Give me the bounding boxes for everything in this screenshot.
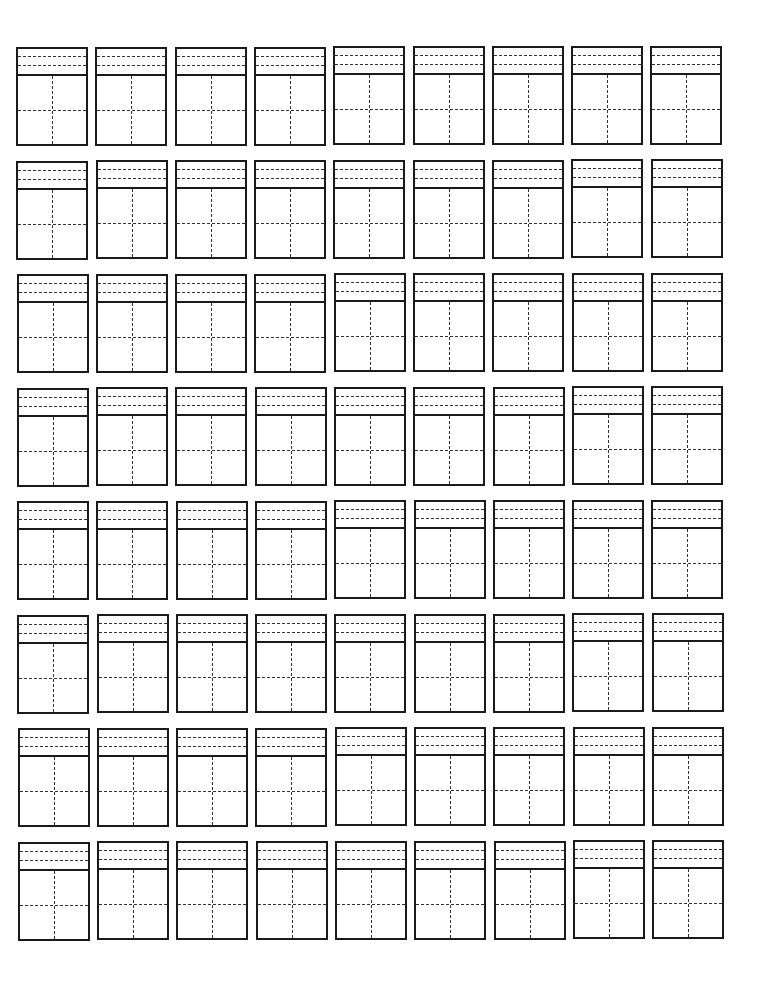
horizontal-guide-line (495, 790, 563, 791)
character-box (257, 416, 325, 484)
pinyin-guide-line (573, 55, 641, 56)
practice-cell (573, 727, 645, 826)
practice-cell (492, 273, 564, 372)
pinyin-guide-line (20, 746, 88, 747)
pinyin-guide-line (20, 860, 88, 861)
character-box (336, 643, 404, 711)
pinyin-guide-line (415, 55, 483, 56)
character-box (495, 416, 563, 484)
character-box (494, 302, 562, 370)
pinyin-lines (18, 49, 86, 76)
pinyin-lines (574, 275, 642, 302)
pinyin-guide-line (575, 745, 643, 746)
horizontal-guide-line (256, 223, 324, 224)
practice-cell (493, 500, 565, 599)
horizontal-guide-line (336, 563, 404, 564)
practice-cell (572, 613, 644, 712)
character-box (257, 643, 325, 711)
pinyin-guide-line (415, 396, 483, 397)
pinyin-lines (573, 161, 641, 188)
horizontal-guide-line (19, 678, 87, 679)
horizontal-guide-line (98, 337, 166, 338)
pinyin-guide-line (97, 56, 165, 57)
practice-cell (652, 613, 724, 712)
pinyin-guide-line (257, 396, 325, 397)
pinyin-guide-line (494, 169, 562, 170)
pinyin-lines (257, 389, 325, 416)
practice-cell (650, 46, 722, 145)
pinyin-lines (652, 48, 720, 75)
character-box (335, 189, 403, 257)
character-box (257, 757, 325, 825)
worksheet-row (0, 161, 760, 260)
character-box (654, 642, 722, 710)
practice-cell (334, 500, 406, 599)
pinyin-lines (18, 163, 86, 190)
pinyin-lines (99, 616, 167, 643)
practice-cell (16, 161, 88, 260)
pinyin-lines (654, 615, 722, 642)
practice-cell (17, 274, 89, 373)
pinyin-guide-line (257, 746, 325, 747)
pinyin-guide-line (416, 509, 484, 510)
pinyin-lines (336, 616, 404, 643)
character-box (178, 643, 246, 711)
pinyin-lines (99, 843, 167, 870)
horizontal-guide-line (495, 677, 563, 678)
pinyin-guide-line (653, 404, 721, 405)
practice-cell (651, 500, 723, 599)
pinyin-lines (335, 48, 403, 75)
horizontal-guide-line (652, 109, 720, 110)
pinyin-guide-line (495, 632, 563, 633)
practice-cell (413, 387, 485, 486)
practice-cell (255, 728, 327, 827)
horizontal-guide-line (575, 790, 643, 791)
pinyin-guide-line (416, 745, 484, 746)
pinyin-guide-line (98, 405, 166, 406)
pinyin-guide-line (573, 64, 641, 65)
character-box (653, 188, 721, 256)
practice-cell (96, 387, 168, 486)
horizontal-guide-line (336, 336, 404, 337)
character-box (256, 303, 324, 371)
pinyin-guide-line (652, 64, 720, 65)
pinyin-lines (653, 502, 721, 529)
character-box (494, 189, 562, 257)
practice-cell (175, 47, 247, 146)
character-box (574, 302, 642, 370)
pinyin-lines (416, 616, 484, 643)
character-box (573, 75, 641, 143)
character-box (337, 756, 405, 824)
practice-cell (96, 274, 168, 373)
pinyin-lines (258, 843, 326, 870)
horizontal-guide-line (496, 904, 564, 905)
pinyin-lines (256, 162, 324, 189)
practice-cell (16, 47, 88, 146)
pinyin-lines (495, 729, 563, 756)
pinyin-guide-line (337, 859, 405, 860)
pinyin-guide-line (416, 859, 484, 860)
pinyin-lines (495, 389, 563, 416)
horizontal-guide-line (98, 450, 166, 451)
horizontal-guide-line (654, 790, 722, 791)
pinyin-guide-line (177, 405, 245, 406)
character-box (18, 190, 86, 258)
horizontal-guide-line (575, 903, 643, 904)
pinyin-lines (336, 389, 404, 416)
pinyin-guide-line (575, 858, 643, 859)
worksheet-row (0, 842, 760, 941)
pinyin-guide-line (256, 56, 324, 57)
horizontal-guide-line (20, 791, 88, 792)
pinyin-guide-line (415, 178, 483, 179)
horizontal-guide-line (19, 564, 87, 565)
character-box (99, 643, 167, 711)
character-box (178, 757, 246, 825)
horizontal-guide-line (653, 336, 721, 337)
pinyin-lines (177, 276, 245, 303)
character-box (98, 303, 166, 371)
pinyin-lines (574, 615, 642, 642)
pinyin-guide-line (652, 55, 720, 56)
practice-cell (334, 614, 406, 713)
pinyin-guide-line (416, 623, 484, 624)
character-box (20, 757, 88, 825)
